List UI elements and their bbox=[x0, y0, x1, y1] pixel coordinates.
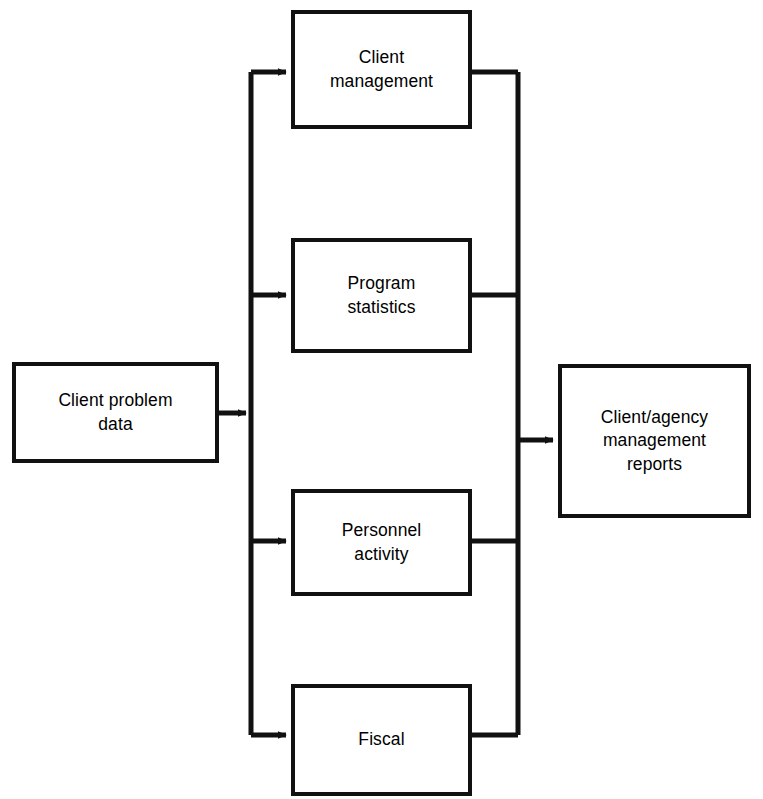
node-client-agency-reports-label: Client/agency management reports bbox=[595, 406, 714, 476]
node-client-problem-data[interactable]: Client problem data bbox=[12, 362, 219, 463]
node-client-management-label: Client management bbox=[324, 46, 439, 93]
node-client-problem-data-label: Client problem data bbox=[52, 389, 178, 436]
node-client-agency-reports[interactable]: Client/agency management reports bbox=[558, 364, 751, 518]
diagram-canvas: Client problem data Client management Pr… bbox=[0, 0, 763, 799]
node-program-statistics-label: Program statistics bbox=[341, 272, 421, 319]
node-program-statistics[interactable]: Program statistics bbox=[291, 238, 472, 353]
node-client-management[interactable]: Client management bbox=[291, 10, 472, 129]
node-fiscal-label: Fiscal bbox=[352, 728, 410, 751]
node-personnel-activity-label: Personnel activity bbox=[336, 519, 428, 566]
node-fiscal[interactable]: Fiscal bbox=[291, 684, 472, 796]
node-personnel-activity[interactable]: Personnel activity bbox=[291, 489, 472, 596]
